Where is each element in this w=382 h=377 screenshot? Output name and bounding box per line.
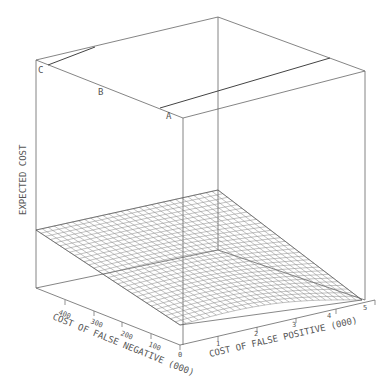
x-tick-4: 4 <box>327 312 331 320</box>
point-label-a: A <box>166 111 172 121</box>
x-tick-0: 0 <box>178 351 182 359</box>
point-label-c: C <box>38 65 43 75</box>
surface-mesh <box>36 190 362 325</box>
point-label-b: B <box>98 87 103 97</box>
surface-plot: C B A EXPECTED COST 0 1 2 3 4 5 400 300 … <box>0 0 382 377</box>
x-axis-label: COST OF FALSE POSITIVE (000) <box>208 315 358 359</box>
z-axis-label: EXPECTED COST <box>18 144 28 215</box>
x-tick-3: 3 <box>292 321 296 329</box>
box-frame <box>36 17 375 345</box>
x-tick-5: 5 <box>363 304 367 312</box>
